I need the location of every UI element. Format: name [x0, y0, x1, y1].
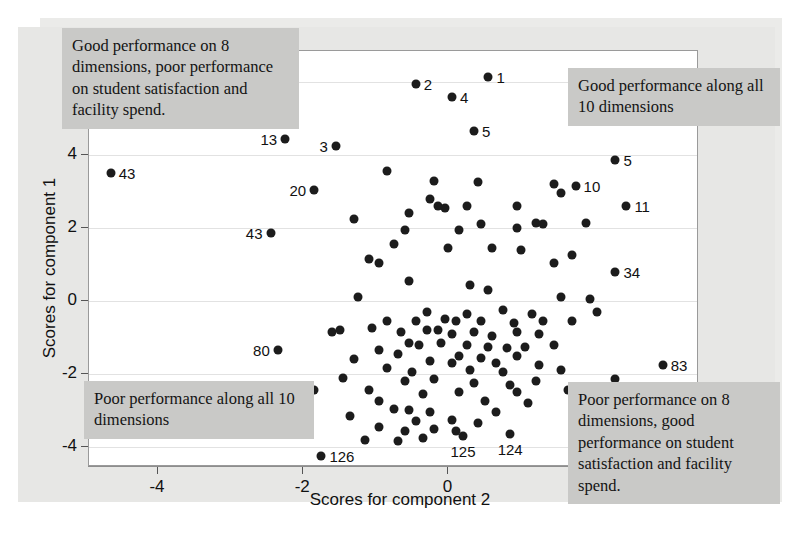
data-point — [451, 426, 460, 435]
y-tick-mark — [81, 154, 88, 155]
data-point — [422, 326, 431, 335]
data-point — [382, 167, 391, 176]
data-point — [469, 327, 478, 336]
data-point — [524, 399, 533, 408]
data-point — [444, 244, 453, 253]
annotation-bottom-left: Poor performance along all 10 dimensions — [84, 381, 314, 439]
data-point — [404, 276, 413, 285]
data-point — [586, 295, 595, 304]
data-point — [353, 293, 362, 302]
data-point — [426, 357, 435, 366]
data-point — [549, 340, 558, 349]
point-label: 3 — [320, 137, 328, 154]
data-point — [350, 214, 359, 223]
point-label: 1 — [496, 68, 504, 85]
data-point — [517, 245, 526, 254]
point-label: 43 — [246, 225, 263, 242]
data-point — [310, 185, 319, 194]
y-tick-label: -2 — [62, 363, 77, 383]
point-label: 5 — [482, 123, 490, 140]
data-point — [368, 324, 377, 333]
y-tick-label: 2 — [68, 217, 77, 237]
data-point — [567, 317, 576, 326]
data-point — [426, 408, 435, 417]
data-point — [455, 388, 464, 397]
data-point — [375, 258, 384, 267]
data-point — [567, 251, 576, 260]
data-point — [360, 435, 369, 444]
data-point — [473, 178, 482, 187]
point-label: 126 — [329, 448, 354, 465]
point-label: 124 — [498, 441, 523, 458]
data-point — [462, 340, 471, 349]
data-point — [535, 329, 544, 338]
data-point — [106, 169, 115, 178]
data-point — [531, 377, 540, 386]
data-point — [509, 318, 518, 327]
data-point — [502, 344, 511, 353]
data-point — [400, 426, 409, 435]
figure-root: 124513354310201143348083113125124126 642… — [0, 0, 800, 549]
data-point — [390, 240, 399, 249]
data-point — [339, 373, 348, 382]
data-point — [498, 368, 507, 377]
x-tick-mark — [302, 466, 303, 474]
data-point — [462, 202, 471, 211]
data-point — [364, 386, 373, 395]
data-point — [346, 411, 355, 420]
annotation-top-left: Good performance on 8 dimensions, poor p… — [62, 28, 299, 129]
data-point — [513, 223, 522, 232]
data-point — [557, 189, 566, 198]
data-point — [477, 220, 486, 229]
data-point — [375, 346, 384, 355]
data-point — [335, 326, 344, 335]
data-point — [404, 338, 413, 347]
data-point — [538, 220, 547, 229]
point-label: 11 — [634, 198, 650, 215]
data-point — [419, 433, 428, 442]
data-point — [611, 267, 620, 276]
data-point — [400, 225, 409, 234]
data-point — [419, 390, 428, 399]
data-point — [469, 379, 478, 388]
gridline-y--2 — [89, 374, 697, 375]
data-point — [535, 360, 544, 369]
data-point — [382, 364, 391, 373]
data-point — [484, 286, 493, 295]
data-point — [466, 366, 475, 375]
data-point — [429, 176, 438, 185]
y-axis-title: Scores for component 1 — [40, 68, 60, 468]
point-label: 80 — [253, 342, 270, 359]
data-point — [484, 342, 493, 351]
y-tick-mark — [81, 373, 88, 374]
y-tick-label: -4 — [62, 436, 77, 456]
data-point — [400, 377, 409, 386]
data-point — [411, 79, 420, 88]
data-point — [527, 309, 536, 318]
point-label: 4 — [460, 88, 468, 105]
data-point — [582, 218, 591, 227]
data-point — [404, 209, 413, 218]
data-point — [488, 331, 497, 340]
x-tick-mark — [157, 466, 158, 474]
data-point — [513, 327, 522, 336]
data-point — [462, 309, 471, 318]
data-point — [658, 360, 667, 369]
data-point — [477, 353, 486, 362]
data-point — [440, 203, 449, 212]
data-point — [451, 317, 460, 326]
data-point — [491, 359, 500, 368]
data-point — [473, 419, 482, 428]
point-label: 34 — [623, 263, 640, 280]
data-point — [415, 340, 424, 349]
data-point — [549, 258, 558, 267]
data-point — [498, 306, 507, 315]
data-point — [513, 351, 522, 360]
data-point — [331, 141, 340, 150]
data-point — [382, 317, 391, 326]
point-label: 5 — [623, 152, 631, 169]
data-point — [448, 329, 457, 338]
data-point — [557, 293, 566, 302]
point-label: 43 — [119, 165, 136, 182]
point-label: 10 — [584, 178, 601, 195]
